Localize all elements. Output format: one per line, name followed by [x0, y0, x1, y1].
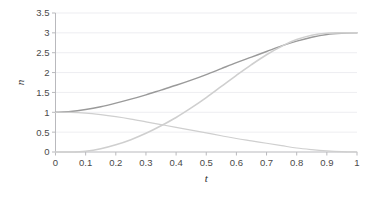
axes-group [56, 13, 358, 152]
y-tick-label: 2.5 [36, 47, 49, 58]
x-tick-label: 1 [354, 157, 359, 168]
x-tick-labels-group: 00.10.20.30.40.50.60.70.80.91 [53, 157, 360, 168]
y-tick-label: 3.5 [36, 7, 49, 18]
x-tick-label: 0.3 [139, 157, 152, 168]
x-tick-label: 0.7 [260, 157, 273, 168]
chart-container: 00.10.20.30.40.50.60.70.80.91 00.511.522… [0, 0, 373, 197]
y-tick-label: 1.5 [36, 87, 49, 98]
x-tick-label: 0.1 [79, 157, 92, 168]
y-tick-labels-group: 00.511.522.533.5 [36, 7, 49, 157]
x-tick-label: 0.6 [230, 157, 243, 168]
x-tick-label: 0 [53, 157, 58, 168]
x-tick-label: 0.4 [169, 157, 182, 168]
x-tick-label: 0.9 [320, 157, 333, 168]
y-tick-label: 3 [44, 27, 49, 38]
x-axis-title: t [205, 172, 209, 184]
x-tick-label: 0.2 [109, 157, 122, 168]
line-chart: 00.10.20.30.40.50.60.70.80.91 00.511.522… [0, 0, 373, 197]
y-tick-label: 0.5 [36, 127, 49, 138]
tick-marks-group [52, 13, 357, 156]
y-tick-label: 0 [44, 146, 49, 157]
x-tick-label: 0.8 [290, 157, 303, 168]
y-tick-label: 1 [44, 107, 49, 118]
y-axis-title: n [14, 79, 26, 85]
x-tick-label: 0.5 [200, 157, 213, 168]
y-tick-label: 2 [44, 67, 49, 78]
